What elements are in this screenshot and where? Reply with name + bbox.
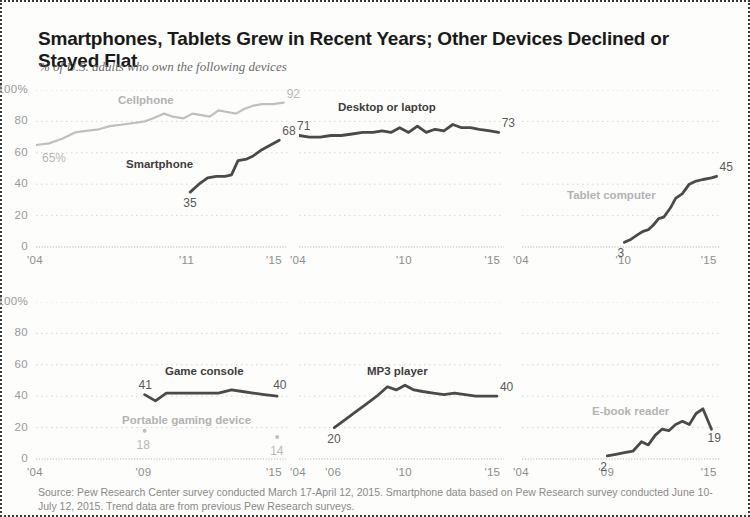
x-axis-tick-label: '15 (266, 254, 282, 266)
chart-panel-mp3-player: '04'06'10'15 (299, 302, 504, 482)
series-label-portable-gaming-device: Portable gaming device (122, 414, 251, 426)
series-label-smartphone: Smartphone (126, 158, 193, 170)
series-label-cellphone: Cellphone (118, 94, 174, 106)
series-line-mp3-player (334, 385, 497, 427)
source-note: Source: Pew Research Center survey condu… (38, 486, 728, 513)
end-value-label-portable-gaming-device: 14 (270, 444, 283, 458)
series-label-desktop-or-laptop: Desktop or laptop (338, 101, 436, 113)
y-axis-tick-label: 60 (0, 358, 28, 370)
start-value-label-e-book-reader: 2 (600, 460, 607, 474)
chart-panel-cellphone-and-smartphone: 020406080100%'04'11'15 (36, 90, 288, 270)
x-axis-tick-label: '11 (179, 254, 194, 266)
series-line-cellphone (36, 103, 284, 145)
series-label-mp3-player: MP3 player (367, 365, 428, 377)
x-axis-tick-label: '04 (27, 466, 43, 478)
x-axis-tick-label: '04 (290, 466, 306, 478)
y-axis-tick-label: 20 (0, 209, 28, 221)
chart-panel-desktop-or-laptop: '04'10'15 (299, 90, 504, 270)
start-value-label-cellphone: 65% (42, 151, 66, 165)
x-axis-tick-label: '06 (325, 466, 341, 478)
x-axis-tick-label: '10 (396, 254, 412, 266)
y-axis-tick-label: 80 (0, 326, 28, 338)
plot-area-game-console-and-portable-gaming-device (36, 302, 288, 463)
x-axis-tick-label: '15 (701, 254, 717, 266)
end-value-label-cellphone: 92 (287, 87, 300, 101)
y-axis-tick-label: 40 (0, 389, 28, 401)
pew-chart-figure: Smartphones, Tablets Grew in Recent Year… (0, 0, 750, 517)
plot-area-cellphone-and-smartphone (36, 90, 288, 251)
y-axis-tick-label: 0 (0, 240, 28, 252)
x-axis-tick-label: '15 (701, 466, 717, 478)
chart-panel-game-console-and-portable-gaming-device: 020406080100%'04'09'15 (36, 302, 288, 482)
x-axis-tick-label: '04 (27, 254, 43, 266)
series-label-tablet-computer: Tablet computer (567, 189, 656, 201)
start-value-label-game-console: 41 (139, 378, 152, 392)
series-line-tablet-computer (624, 176, 716, 242)
plot-area-desktop-or-laptop (299, 90, 504, 251)
start-value-label-portable-gaming-device: 18 (137, 438, 150, 452)
end-value-label-game-console: 40 (273, 378, 286, 392)
start-value-label-desktop-or-laptop: 71 (297, 119, 310, 133)
x-axis-tick-label: '09 (136, 466, 152, 478)
plot-area-e-book-reader (522, 302, 720, 463)
series-label-game-console: Game console (165, 365, 244, 377)
y-axis-tick-label: 80 (0, 114, 28, 126)
y-axis-tick-label: 20 (0, 421, 28, 433)
start-value-label-smartphone: 35 (183, 196, 196, 210)
x-axis-tick-label: '15 (484, 466, 500, 478)
x-axis-tick-label: '04 (513, 466, 529, 478)
y-axis-tick-label: 100% (0, 83, 28, 95)
series-line-game-console (145, 390, 278, 401)
x-axis-tick-label: '10 (396, 466, 412, 478)
x-axis-tick-label: '15 (484, 254, 500, 266)
series-line-desktop-or-laptop (299, 125, 499, 138)
start-value-label-mp3-player: 20 (327, 432, 340, 446)
x-axis-tick-label: '15 (266, 466, 282, 478)
chart-panel-tablet-computer: '04'10'15 (522, 90, 720, 270)
series-line-smartphone (190, 140, 279, 192)
x-axis-tick-label: '04 (513, 254, 529, 266)
y-axis-tick-label: 60 (0, 146, 28, 158)
y-axis-tick-label: 0 (0, 452, 28, 464)
x-axis-tick-label: '04 (290, 254, 306, 266)
start-value-label-tablet-computer: 3 (617, 246, 624, 260)
end-value-label-mp3-player: 40 (500, 380, 513, 394)
series-label-e-book-reader: E-book reader (592, 405, 669, 417)
end-value-label-smartphone: 68 (282, 124, 295, 138)
y-axis-tick-label: 100% (0, 295, 28, 307)
data-point-portable-gaming-device (275, 435, 279, 439)
chart-panel-e-book-reader: '04'09'15 (522, 302, 720, 482)
chart-subtitle: % of U.S. adults who own the following d… (39, 59, 599, 75)
plot-area-tablet-computer (522, 90, 720, 251)
data-point-portable-gaming-device (143, 429, 147, 433)
end-value-label-tablet-computer: 45 (720, 160, 733, 174)
end-value-label-desktop-or-laptop: 73 (502, 116, 515, 130)
end-value-label-e-book-reader: 19 (707, 431, 720, 445)
y-axis-tick-label: 40 (0, 177, 28, 189)
